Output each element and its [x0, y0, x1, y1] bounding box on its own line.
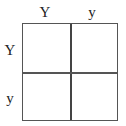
- cell-1-2: [71, 24, 117, 72]
- horizontal-divider: [23, 72, 117, 74]
- cell-1-1: [23, 24, 70, 72]
- column-header-1: Y: [35, 5, 55, 20]
- row-header-2: y: [0, 91, 20, 106]
- row-header-1: Y: [0, 43, 20, 58]
- column-header-2: y: [82, 5, 102, 20]
- punnett-grid: [22, 23, 118, 121]
- cell-2-2: [71, 73, 117, 120]
- cell-2-1: [23, 73, 70, 120]
